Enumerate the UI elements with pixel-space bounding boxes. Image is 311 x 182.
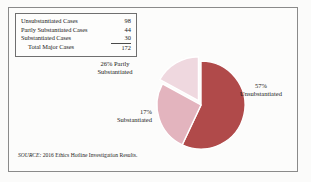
row-label: Unsubstantiated Cases <box>21 17 111 26</box>
case-summary-table: Unsubstantiated Cases 98 Partly Substant… <box>15 13 137 57</box>
row-value: 98 <box>111 17 131 26</box>
total-value: 172 <box>111 43 131 52</box>
row-value: 30 <box>111 34 131 43</box>
table-row: Substantiated Cases 30 <box>21 34 131 43</box>
table-total-row: Total Major Cases 172 <box>21 43 131 52</box>
source-text: 2016 Ethics Hotline Investigation Result… <box>41 152 137 158</box>
pie-chart-svg <box>145 55 257 155</box>
table-row: Unsubstantiated Cases 98 <box>21 17 131 26</box>
pie-label-partly-name: Substantiated <box>78 68 152 76</box>
pie-chart <box>145 55 257 155</box>
row-value: 44 <box>111 26 131 35</box>
pie-label-unsubstantiated: 57% Unsubstantiated <box>228 82 294 99</box>
pie-label-partly-substantiated: 26% Partly Substantiated <box>78 60 152 77</box>
pie-label-substantiated-pct: 17% <box>72 108 152 116</box>
source-prefix: SOURCE: <box>18 152 41 158</box>
table: Unsubstantiated Cases 98 Partly Substant… <box>21 17 131 52</box>
row-label: Partly Substantiated Cases <box>21 26 111 35</box>
total-label: Total Major Cases <box>21 43 111 52</box>
pie-label-partly-pct: 26% Partly <box>78 60 152 68</box>
pie-label-substantiated-name: Substantiated <box>72 116 152 124</box>
figure-container: Unsubstantiated Cases 98 Partly Substant… <box>0 0 311 182</box>
pie-label-unsubstantiated-pct: 57% <box>228 82 294 90</box>
table-row: Partly Substantiated Cases 44 <box>21 26 131 35</box>
pie-label-substantiated: 17% Substantiated <box>72 108 152 125</box>
pie-slices <box>157 57 245 149</box>
row-label: Substantiated Cases <box>21 34 111 43</box>
source-note: SOURCE: 2016 Ethics Hotline Investigatio… <box>18 152 137 158</box>
pie-label-unsubstantiated-name: Unsubstantiated <box>228 90 294 98</box>
